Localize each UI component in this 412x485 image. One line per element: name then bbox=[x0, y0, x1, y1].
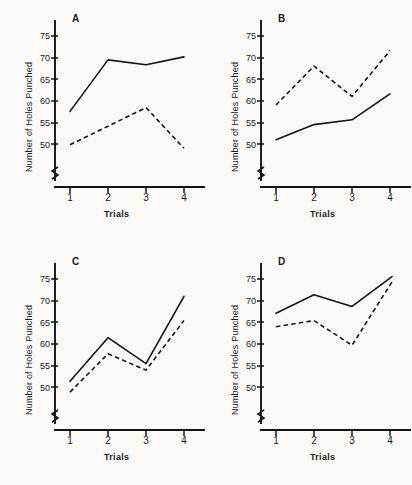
series-dashed-line bbox=[276, 282, 392, 346]
panel-d: D Number of Holes Punched Trials 75 70 6… bbox=[206, 242, 412, 485]
axis-break-icon bbox=[258, 410, 264, 422]
figure-four-panel-line-charts: A Number of Holes Punched Trials 75 70 6… bbox=[0, 0, 412, 485]
panel-b: B Number of Holes Punched Trials 75 70 6… bbox=[206, 0, 412, 242]
axis-break-icon bbox=[52, 410, 58, 422]
panel-a-plot bbox=[0, 0, 206, 242]
series-solid-line bbox=[276, 94, 390, 140]
series-solid-line bbox=[70, 57, 184, 112]
series-dashed-line bbox=[70, 108, 184, 149]
series-solid-line bbox=[70, 296, 184, 381]
series-dashed-line bbox=[70, 321, 184, 393]
panel-d-plot bbox=[206, 242, 412, 485]
axis-break-icon bbox=[258, 167, 264, 179]
series-solid-line bbox=[276, 277, 392, 314]
panel-b-plot bbox=[206, 0, 412, 242]
panel-c: C Number of Holes Punched Trials 75 70 6… bbox=[0, 242, 206, 485]
panel-a: A Number of Holes Punched Trials 75 70 6… bbox=[0, 0, 206, 242]
series-dashed-line bbox=[276, 51, 390, 105]
axis-break-icon bbox=[52, 167, 58, 179]
panel-c-plot bbox=[0, 242, 206, 485]
